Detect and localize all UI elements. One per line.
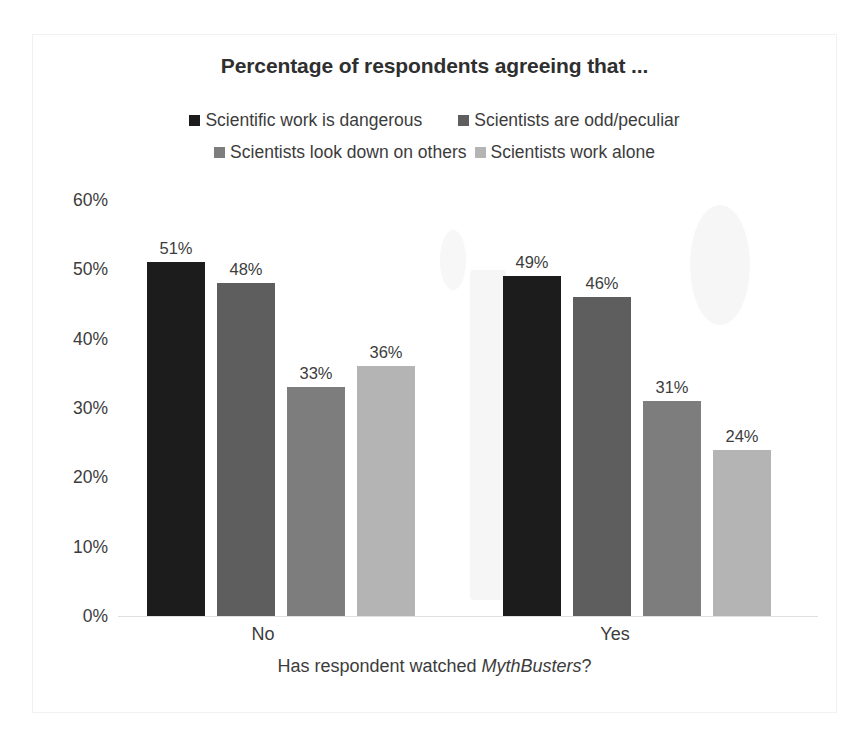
bar-value-label: 33% xyxy=(287,364,345,383)
legend-item-0[interactable]: Scientific work is dangerous xyxy=(189,110,422,131)
x-axis-title-emphasis: MythBusters xyxy=(482,656,582,676)
y-tick-label: 10% xyxy=(73,536,108,557)
x-axis-title-prefix: Has respondent watched xyxy=(277,656,481,676)
bar[interactable] xyxy=(503,276,561,616)
bar-value-label: 49% xyxy=(503,253,561,272)
bar-slot: 46% xyxy=(573,200,631,616)
x-tick-label-yes: Yes xyxy=(470,624,760,645)
chart-title: Percentage of respondents agreeing that … xyxy=(32,54,837,78)
bar[interactable] xyxy=(147,262,205,616)
bar-slot: 51% xyxy=(147,200,205,616)
legend-swatch-icon xyxy=(214,147,225,158)
x-axis-line xyxy=(118,616,818,617)
bar[interactable] xyxy=(643,401,701,616)
chart-legend: Scientific work is dangerous Scientists … xyxy=(32,104,837,168)
legend-label-0: Scientific work is dangerous xyxy=(205,110,422,131)
legend-label-2: Scientists look down on others xyxy=(230,142,466,163)
y-tick-label: 0% xyxy=(83,606,108,627)
y-tick-label: 50% xyxy=(73,259,108,280)
bar[interactable] xyxy=(713,450,771,616)
legend-swatch-icon xyxy=(458,115,469,126)
legend-item-2[interactable]: Scientists look down on others xyxy=(214,142,466,163)
y-tick-label: 40% xyxy=(73,328,108,349)
legend-swatch-icon xyxy=(475,147,486,158)
y-tick-label: 60% xyxy=(73,190,108,211)
x-axis-title-suffix: ? xyxy=(582,656,592,676)
bar-slot: 33% xyxy=(287,200,345,616)
legend-item-1[interactable]: Scientists are odd/peculiar xyxy=(458,110,679,131)
y-tick-label: 20% xyxy=(73,467,108,488)
bar-value-label: 36% xyxy=(357,343,415,362)
chart-container: Percentage of respondents agreeing that … xyxy=(0,0,868,749)
bar-value-label: 48% xyxy=(217,260,275,279)
bar-value-label: 51% xyxy=(147,239,205,258)
y-axis: 60%50%40%30%20%10%0% xyxy=(40,200,108,616)
bar[interactable] xyxy=(573,297,631,616)
bar-slot: 49% xyxy=(503,200,561,616)
x-axis-title: Has respondent watched MythBusters? xyxy=(32,656,837,677)
bar[interactable] xyxy=(287,387,345,616)
legend-item-3[interactable]: Scientists work alone xyxy=(475,142,655,163)
bar-slot: 48% xyxy=(217,200,275,616)
bar-slot: 24% xyxy=(713,200,771,616)
bar-slot: 36% xyxy=(357,200,415,616)
legend-swatch-icon xyxy=(189,115,200,126)
bar-value-label: 24% xyxy=(713,427,771,446)
plot-area: 51%48%33%36%49%46%31%24% xyxy=(118,200,818,616)
y-tick-label: 30% xyxy=(73,398,108,419)
bar-group-yes: 49%46%31%24% xyxy=(503,200,783,616)
x-tick-label-no: No xyxy=(118,624,408,645)
legend-label-1: Scientists are odd/peculiar xyxy=(474,110,679,131)
bar-group-no: 51%48%33%36% xyxy=(147,200,427,616)
bar-slot: 31% xyxy=(643,200,701,616)
bar-value-label: 46% xyxy=(573,274,631,293)
legend-label-3: Scientists work alone xyxy=(491,142,655,163)
bar-value-label: 31% xyxy=(643,378,701,397)
bar[interactable] xyxy=(357,366,415,616)
bar[interactable] xyxy=(217,283,275,616)
